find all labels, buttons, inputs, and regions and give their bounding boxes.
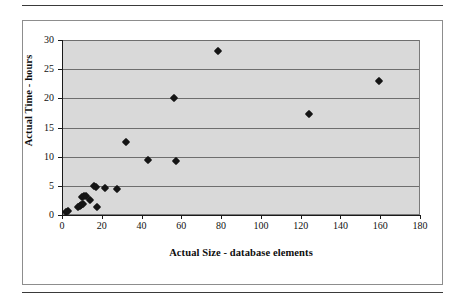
x-tick-label: 20 [82,221,122,231]
y-tick-mark [58,69,62,70]
x-tick-label: 100 [241,221,281,231]
gridline [63,69,419,70]
x-tick-label: 80 [201,221,241,231]
bottom-rule [22,292,443,293]
x-tick-label: 180 [400,221,440,231]
x-tick-label: 160 [360,221,400,231]
top-rule [22,5,443,6]
y-tick-mark [58,157,62,158]
y-axis-line [62,40,63,216]
x-tick-mark [62,215,63,219]
y-tick-label: 5 [24,181,54,191]
y-tick-mark [58,40,62,41]
x-tick-label: 120 [281,221,321,231]
x-tick-label: 0 [42,221,82,231]
x-tick-mark [142,215,143,219]
x-axis-title: Actual Size - database elements [62,247,420,258]
x-tick-label: 40 [122,221,162,231]
x-tick-mark [340,215,341,219]
x-tick-label: 140 [320,221,360,231]
x-tick-mark [102,215,103,219]
x-tick-mark [261,215,262,219]
x-tick-mark [301,215,302,219]
x-tick-mark [420,215,421,219]
y-axis-title: Actual Time - hours [23,21,34,181]
gridline [63,40,419,41]
y-tick-label: 0 [24,210,54,220]
x-axis-line [62,215,421,216]
x-tick-label: 60 [161,221,201,231]
y-tick-mark [58,186,62,187]
y-tick-mark [58,128,62,129]
y-tick-mark [58,98,62,99]
gridline [63,157,419,158]
figure-page: 051015202530 020406080100120140160180 Ac… [0,0,465,297]
x-tick-mark [221,215,222,219]
gridline [63,128,419,129]
x-tick-mark [380,215,381,219]
x-tick-mark [181,215,182,219]
gridline [63,98,419,99]
